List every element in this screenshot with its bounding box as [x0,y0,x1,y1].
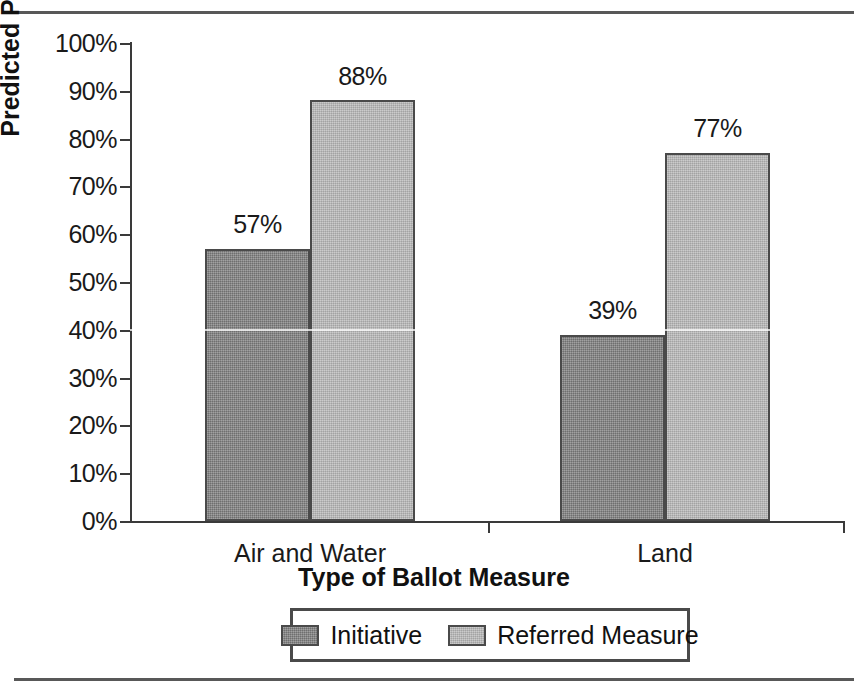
bar-air-and-water-referred-measure[interactable] [310,100,415,521]
bar-value-label-land-referred-measure: 77% [665,114,770,143]
legend-label-initiative: Initiative [330,621,422,650]
legend-label-referred-measure: Referred Measure [497,621,698,650]
chart-page: Predicted Passage Rate 100% 90% 80% 70% … [0,0,868,689]
legend-swatch-referred-measure [448,625,486,646]
bar-land-initiative[interactable] [560,335,665,521]
top-divider-rule [14,11,854,14]
legend-item-initiative[interactable]: Initiative [281,621,422,650]
bar-land-referred-measure[interactable] [665,153,770,521]
bottom-divider-rule [14,678,854,681]
bar-value-label-air-and-water-referred-measure: 88% [310,62,415,91]
plot-area: 100% 90% 80% 70% 60% 50% 40% 30% [130,43,845,521]
x-tick-category-separator [488,521,490,533]
x-tick-axis-end [843,521,845,533]
bar-value-label-air-and-water-initiative: 57% [205,210,310,239]
legend-item-referred-measure[interactable]: Referred Measure [448,621,698,650]
y-axis-line [130,42,132,522]
bar-value-label-land-initiative: 39% [560,296,665,325]
bar-air-and-water-initiative[interactable] [205,249,310,522]
y-axis-title: Predicted Passage Rate [0,0,25,160]
x-axis-title: Type of Ballot Measure [0,563,868,592]
legend-swatch-initiative [281,625,319,646]
chart-legend: Initiative Referred Measure [290,608,690,662]
